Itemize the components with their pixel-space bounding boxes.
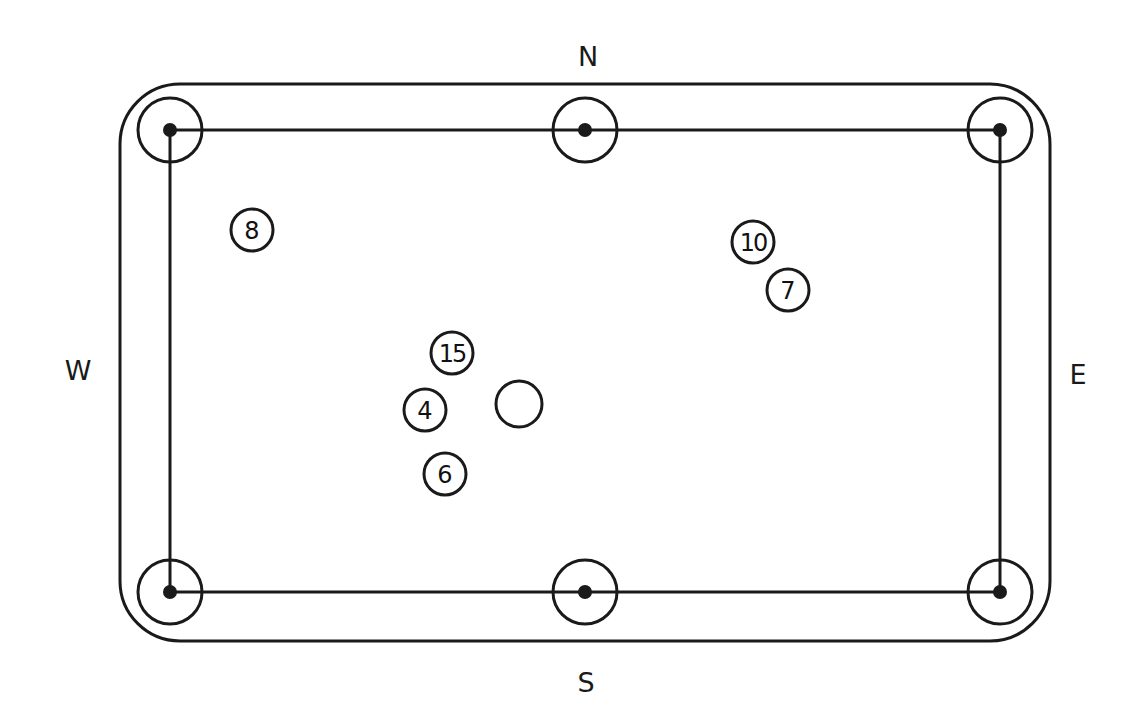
pocket-center-dot	[578, 123, 592, 137]
table-rail	[120, 84, 1050, 641]
compass-south-label: S	[577, 669, 594, 696]
pocket-center-dot	[163, 123, 177, 137]
ball-number: 7	[780, 277, 795, 305]
pool-table: 81071546	[0, 0, 1148, 728]
pocket-center-dot	[993, 585, 1007, 599]
ball-number: 8	[244, 217, 259, 245]
compass-north-label: N	[578, 43, 598, 70]
compass-west-label: W	[65, 357, 92, 384]
pocket-center-dot	[578, 585, 592, 599]
compass-east-label: E	[1069, 361, 1086, 388]
pockets	[138, 98, 1032, 624]
ball-10: 10	[732, 221, 774, 263]
pool-table-diagram: 81071546 N S W E	[0, 0, 1148, 728]
pocket-center-dot	[993, 123, 1007, 137]
ball-6: 6	[424, 453, 466, 495]
ball-7: 7	[767, 269, 809, 311]
object-balls: 81071546	[231, 209, 809, 495]
ball-4: 4	[404, 389, 446, 431]
ball-number: 6	[437, 461, 452, 489]
ball-8: 8	[231, 209, 273, 251]
cue-ball	[496, 381, 542, 427]
playfield-lines	[170, 130, 1000, 592]
ball-number: 4	[417, 397, 432, 425]
pocket-center-dot	[163, 585, 177, 599]
ball-number: 10	[740, 229, 767, 257]
ball-number: 15	[439, 340, 466, 368]
ball-15: 15	[431, 332, 473, 374]
